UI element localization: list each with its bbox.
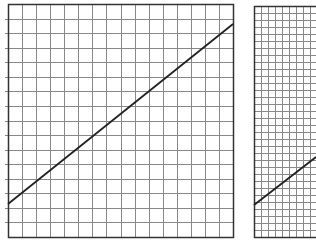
- right-grid-panel: [254, 6, 316, 238]
- graph-paper-diagram: [0, 0, 316, 241]
- plotted-line: [8, 24, 233, 204]
- left-grid-panel: [5, 4, 234, 238]
- grid-lines: [254, 6, 316, 237]
- grid-lines: [5, 4, 233, 237]
